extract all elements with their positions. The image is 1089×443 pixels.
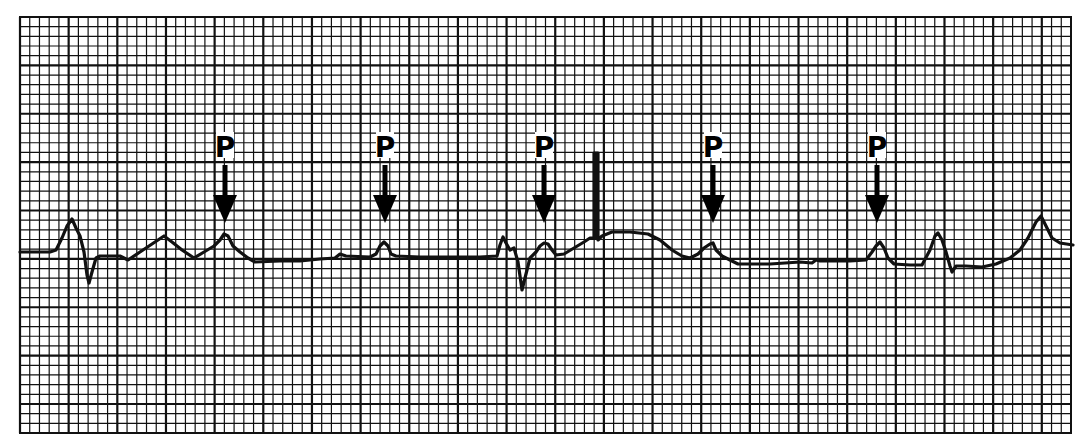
arrow-shaft — [542, 165, 547, 197]
arrow-shaft — [223, 165, 228, 197]
p-wave-marker: P — [701, 131, 725, 223]
p-wave-label: P — [375, 131, 396, 164]
p-wave-label: P — [215, 131, 236, 164]
p-wave-markers: PPPPP — [213, 131, 889, 223]
p-wave-label: P — [867, 131, 888, 164]
down-arrow-icon — [701, 195, 725, 223]
ecg-spike — [594, 153, 599, 240]
p-wave-marker: P — [213, 131, 237, 223]
down-arrow-icon — [865, 195, 889, 223]
ecg-grid-minor-lines — [20, 17, 1071, 433]
arrow-shaft — [383, 165, 388, 197]
down-arrow-icon — [373, 195, 397, 223]
down-arrow-icon — [213, 195, 237, 223]
p-wave-marker: P — [373, 131, 397, 223]
arrow-shaft — [711, 165, 716, 197]
p-wave-label: P — [534, 131, 555, 164]
ecg-strip: PPPPP — [0, 0, 1089, 443]
arrow-shaft — [875, 165, 880, 197]
p-wave-marker: P — [865, 131, 889, 223]
p-wave-label: P — [703, 131, 724, 164]
